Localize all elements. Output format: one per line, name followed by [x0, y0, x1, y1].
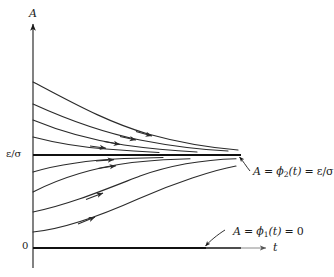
lower-annot-phi-subscript: 1: [264, 230, 269, 239]
upper-equilibrium-pointer: [240, 157, 251, 171]
lower-annot-phi: ϕ: [256, 225, 264, 238]
lower-annot-A: A: [233, 225, 241, 238]
upper-annot-eq2: =: [304, 165, 313, 178]
upper-annot-phi-subscript: 2: [284, 170, 289, 179]
solution-curve-above-3: [33, 120, 197, 152]
solution-curve-below-3: [33, 159, 236, 212]
solution-curve-below-4: [33, 166, 236, 232]
lower-annot-eq2: =: [284, 225, 293, 238]
origin-label: 0: [22, 241, 28, 251]
upper-equilibrium-annotation: A=ϕ2(t)=ε/σ: [253, 166, 334, 177]
upper-annot-arg: (t): [288, 165, 301, 178]
upper-annot-eq1: =: [264, 165, 273, 178]
lower-equilibrium-pointer: [206, 230, 226, 246]
upper-annot-A: A: [253, 165, 261, 178]
flow-arrow-above-3: [104, 142, 120, 145]
lower-equilibrium-annotation: A=ϕ1(t)=0: [233, 226, 304, 237]
solution-curve-below-1: [33, 158, 163, 173]
lower-annot-value: 0: [297, 225, 304, 238]
y-axis-label: A: [29, 8, 37, 19]
y-tick-label-epsilon-sigma: ε/σ: [6, 149, 21, 159]
upper-annot-value: ε/σ: [317, 165, 334, 178]
lower-annot-arg: (t): [268, 225, 281, 238]
x-axis-label: t: [273, 242, 277, 253]
upper-annot-phi: ϕ: [276, 165, 284, 178]
flow-arrow-below-4: [78, 217, 95, 224]
flow-arrow-above-1: [136, 132, 152, 137]
lower-annot-eq1: =: [244, 225, 253, 238]
